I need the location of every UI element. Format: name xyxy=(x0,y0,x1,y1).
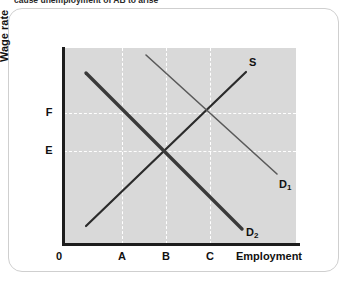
y-tick-label-F: F xyxy=(42,106,56,118)
x-tick-label-A: A xyxy=(115,250,129,262)
x-tick-label-C: C xyxy=(203,250,217,262)
demand-1-curve-label-subscript: 1 xyxy=(287,183,291,192)
demand-2-curve-label-subscript: 2 xyxy=(254,231,258,240)
y-tick-label-E: E xyxy=(42,144,56,156)
x-axis-title: Employment xyxy=(236,250,302,262)
demand-1-curve-label: D1 xyxy=(279,178,291,190)
demand-1-curve-label-text: D xyxy=(279,178,287,190)
supply-curve-label-text: S xyxy=(249,56,256,68)
y-axis-title: Wage rate xyxy=(0,0,10,62)
curves-layer xyxy=(0,0,357,286)
x-tick-label-B: B xyxy=(159,250,173,262)
demand-2-curve-line xyxy=(86,73,242,229)
demand-2-curve-label-text: D xyxy=(246,226,254,238)
supply-curve-label: S xyxy=(249,56,256,68)
origin-label: 0 xyxy=(52,250,66,262)
demand-2-curve-label: D2 xyxy=(246,226,258,238)
economics-supply-demand-figure: S D1 D2 F E 0 A B C Wage rate Employment xyxy=(0,0,357,286)
demand-1-curve-line xyxy=(146,55,277,174)
